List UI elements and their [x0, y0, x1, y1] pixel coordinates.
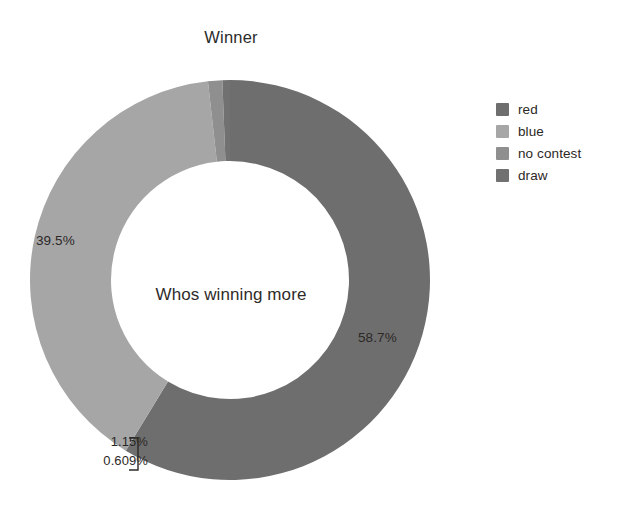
donut-svg [28, 78, 432, 482]
donut-plot-area [28, 78, 432, 482]
donut-slice-group [30, 80, 430, 480]
donut-center-label: Whos winning more [90, 285, 372, 305]
label-leader-bracket [128, 437, 140, 471]
legend-item-blue[interactable]: blue [496, 121, 626, 141]
legend-swatch-icon-red [496, 103, 509, 116]
legend-swatch-icon-blue [496, 125, 509, 138]
legend-item-red[interactable]: red [496, 99, 626, 119]
donut-chart-figure: Winner Whos winning more 39.5% 58.7% 1.1… [0, 0, 636, 531]
slice-value-label-blue: 39.5% [36, 233, 75, 248]
legend-label-draw: draw [518, 168, 548, 183]
legend-label-no-contest: no contest [518, 146, 581, 161]
chart-legend: red blue no contest draw [496, 99, 626, 187]
legend-item-no-contest[interactable]: no contest [496, 143, 626, 163]
slice-value-label-red: 58.7% [358, 330, 397, 345]
legend-label-red: red [518, 102, 538, 117]
chart-title: Winner [0, 28, 462, 47]
legend-item-draw[interactable]: draw [496, 165, 626, 185]
legend-swatch-icon-no-contest [496, 147, 509, 160]
legend-label-blue: blue [518, 124, 544, 139]
legend-swatch-icon-draw [496, 169, 509, 182]
